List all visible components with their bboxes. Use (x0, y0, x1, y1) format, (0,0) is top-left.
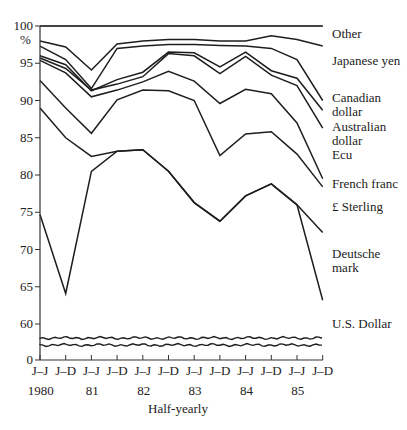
x-tick-label: J–D (312, 363, 333, 378)
legend-us-dollar: U.S. Dollar (332, 316, 392, 331)
y-tick-label: 100 (14, 18, 34, 33)
x-year-label: 82 (137, 383, 150, 398)
y-tick-label: 80 (20, 167, 33, 182)
us-dollar-wavy-line (40, 344, 322, 347)
x-year-label: 84 (240, 383, 254, 398)
australian-dollar-boundary-line (40, 52, 323, 110)
x-tick-label: J–D (107, 363, 128, 378)
y-tick-label: 90 (20, 93, 33, 108)
legend: Other Japanese yen Canadian dollar Austr… (332, 26, 401, 331)
x-tick-label: J–D (55, 363, 76, 378)
x-tick-label: J–D (158, 363, 179, 378)
us-dollar-wavy-line (40, 337, 322, 340)
x-axis-ticks: J–JJ–DJ–JJ–DJ–JJ–DJ–JJ–DJ–JJ–DJ–JJ–D1980… (28, 355, 333, 398)
legend-australian-dollar-line1: Australian (332, 119, 387, 134)
y-tick-label: 60 (20, 316, 33, 331)
y-tick-label: 95 (20, 55, 33, 70)
us-dollar-break-lines (40, 337, 322, 347)
x-tick-label: J–J (83, 363, 100, 378)
x-tick-label: J–J (186, 363, 203, 378)
legend-deutsche-mark-line2: mark (332, 260, 359, 275)
y-tick-label: 70 (20, 242, 33, 257)
sterling-boundary-line (40, 80, 323, 186)
legend-canadian-dollar-line2: dollar (332, 104, 363, 119)
plot-lines (40, 26, 323, 300)
legend-other: Other (332, 26, 362, 41)
y-tick-label: 75 (20, 204, 33, 219)
x-axis-title: Half-yearly (148, 401, 208, 416)
legend-deutsche-mark-line1: Deutsche (332, 246, 381, 261)
y-tick-label: 85 (20, 130, 33, 145)
legend-australian-dollar-line2: dollar (332, 133, 363, 148)
x-year-label: 85 (291, 383, 304, 398)
legend-canadian-dollar-line1: Canadian (332, 90, 382, 105)
x-tick-label: J–J (134, 363, 151, 378)
y-tick-label: 65 (20, 279, 33, 294)
x-tick-label: J–J (237, 363, 254, 378)
currency-share-chart: 06065707580859095100 J–JJ–DJ–JJ–DJ–JJ–DJ… (0, 0, 407, 430)
x-year-label: 1980 (28, 383, 54, 398)
legend-french-franc: French franc (332, 176, 398, 191)
x-tick-label: J–D (209, 363, 230, 378)
x-tick-label: J–J (289, 363, 306, 378)
legend-sterling: £ Sterling (332, 199, 383, 214)
legend-ecu: Ecu (332, 147, 353, 162)
x-tick-label: J–J (32, 363, 49, 378)
x-year-label: 81 (86, 383, 99, 398)
u-s-dollar-boundary-line (40, 150, 323, 301)
y-axis-ticks: 06065707580859095100 (14, 18, 41, 367)
x-tick-label: J–D (261, 363, 282, 378)
y-unit-label: % (20, 32, 31, 47)
legend-japanese-yen: Japanese yen (332, 53, 401, 68)
ecu-boundary-line (40, 54, 323, 129)
x-year-label: 83 (189, 383, 202, 398)
